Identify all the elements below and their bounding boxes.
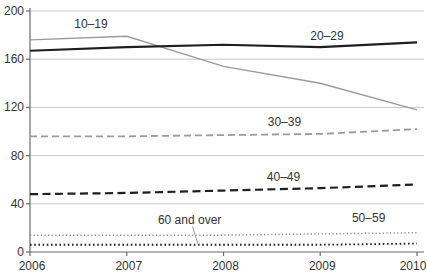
- x-tick-label-2010: 2010: [400, 259, 427, 273]
- series-label-60-and-over: 60 and over: [158, 213, 221, 227]
- series-line-60-and-over: [30, 244, 417, 245]
- series-line-40-49: [30, 185, 417, 195]
- x-tick-label-2006: 2006: [19, 259, 46, 273]
- series-label-30-39: 30–39: [268, 115, 302, 129]
- x-tick-label-2008: 2008: [212, 259, 239, 273]
- x-tick-label-2007: 2007: [115, 259, 142, 273]
- series-label-40-49: 40–49: [267, 170, 301, 184]
- y-tick-label-40: 40: [11, 197, 25, 211]
- series-line-50-59: [30, 233, 417, 235]
- y-tick-label-200: 200: [4, 4, 24, 18]
- x-tick-label-2009: 2009: [309, 259, 336, 273]
- y-tick-label-160: 160: [4, 52, 24, 66]
- series-line-30-39: [30, 129, 417, 136]
- series-line-10-19: [30, 36, 417, 110]
- y-tick-label-80: 80: [11, 149, 25, 163]
- y-tick-label-0: 0: [17, 245, 24, 259]
- series-label-50-59: 50–59: [352, 211, 386, 225]
- leader-line-60-and-over: [193, 227, 199, 246]
- series-line-20-29: [30, 42, 417, 50]
- y-tick-label-120: 120: [4, 100, 24, 114]
- series-label-20-29: 20–29: [310, 29, 344, 43]
- plot-area: 040801201602002006200720082009201010–192…: [0, 0, 427, 278]
- series-label-10-19: 10–19: [74, 17, 108, 31]
- age-group-line-chart: 040801201602002006200720082009201010–192…: [0, 0, 427, 278]
